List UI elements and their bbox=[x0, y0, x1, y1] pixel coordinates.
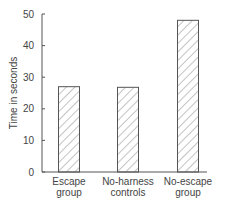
x-axis-labels: EscapegroupNo-harnesscontrolsNo-escapegr… bbox=[52, 176, 212, 198]
bar-chart: 01020304050 EscapegroupNo-harnesscontrol… bbox=[0, 0, 225, 204]
x-category-label: No-escape bbox=[164, 176, 213, 187]
bars bbox=[59, 20, 199, 172]
x-category-label: Escape bbox=[52, 176, 86, 187]
x-category-label: No-harness bbox=[102, 176, 154, 187]
bar-escape-group bbox=[59, 87, 80, 172]
y-tick-label: 20 bbox=[23, 103, 35, 114]
bar-no-harness-controls bbox=[118, 87, 139, 172]
bar-no-escape-group bbox=[178, 20, 199, 172]
y-tick-label: 40 bbox=[23, 40, 35, 51]
x-category-label: group bbox=[175, 187, 201, 198]
x-category-label: controls bbox=[110, 187, 145, 198]
y-tick-label: 50 bbox=[23, 9, 35, 20]
y-axis-title: Time in seconds bbox=[8, 57, 19, 129]
y-tick-label: 10 bbox=[23, 135, 35, 146]
y-tick-label: 0 bbox=[28, 167, 34, 178]
x-category-label: group bbox=[56, 187, 82, 198]
y-tick-label: 30 bbox=[23, 72, 35, 83]
